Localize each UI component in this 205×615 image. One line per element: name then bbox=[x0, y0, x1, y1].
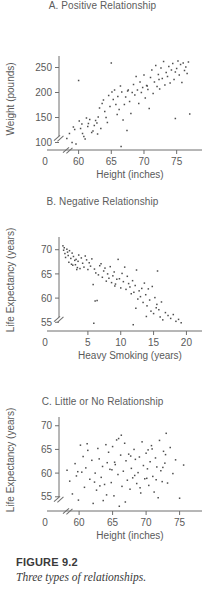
data-point bbox=[84, 487, 86, 489]
data-point bbox=[175, 321, 177, 323]
data-point bbox=[115, 283, 117, 285]
data-point bbox=[130, 113, 132, 115]
data-point bbox=[128, 283, 130, 285]
data-point bbox=[145, 97, 147, 99]
data-point bbox=[146, 85, 148, 87]
data-point bbox=[126, 130, 128, 132]
data-point bbox=[165, 312, 167, 314]
data-point bbox=[124, 104, 126, 106]
data-point bbox=[71, 252, 73, 254]
data-point bbox=[99, 265, 101, 267]
data-point bbox=[142, 87, 144, 89]
data-point bbox=[120, 287, 122, 289]
data-point bbox=[94, 125, 96, 127]
data-point bbox=[160, 67, 162, 69]
data-point bbox=[159, 316, 161, 318]
data-point bbox=[125, 96, 127, 98]
data-point bbox=[165, 433, 167, 435]
data-point bbox=[176, 68, 178, 70]
data-point bbox=[117, 96, 119, 98]
data-point bbox=[114, 285, 116, 287]
data-point bbox=[129, 101, 131, 103]
data-point bbox=[74, 463, 76, 465]
data-point bbox=[120, 146, 122, 148]
data-point bbox=[118, 109, 120, 111]
data-point bbox=[186, 73, 188, 75]
data-point bbox=[142, 302, 144, 304]
data-point bbox=[78, 254, 80, 256]
data-point bbox=[82, 263, 84, 265]
break-slash-2 bbox=[57, 316, 63, 323]
data-point bbox=[175, 118, 177, 120]
data-point bbox=[109, 469, 111, 471]
data-point bbox=[140, 296, 142, 298]
data-point bbox=[95, 120, 97, 122]
data-point bbox=[167, 76, 169, 78]
data-point bbox=[160, 470, 162, 472]
data-point bbox=[82, 133, 84, 135]
x-tick-label-65: 65 bbox=[107, 517, 119, 528]
data-point bbox=[64, 253, 66, 255]
data-point bbox=[153, 313, 155, 315]
y-tick-label-150: 150 bbox=[35, 112, 52, 123]
data-point bbox=[173, 79, 175, 81]
data-point bbox=[121, 273, 123, 275]
data-point bbox=[115, 104, 117, 106]
data-point bbox=[86, 443, 88, 445]
data-point bbox=[161, 481, 163, 483]
data-point bbox=[81, 123, 83, 125]
data-point bbox=[154, 297, 156, 299]
data-point bbox=[116, 278, 118, 280]
data-point bbox=[155, 65, 157, 67]
data-point bbox=[179, 497, 181, 499]
data-point bbox=[102, 500, 104, 502]
data-point bbox=[136, 483, 138, 485]
data-point bbox=[147, 89, 149, 91]
data-point bbox=[137, 89, 139, 91]
data-point bbox=[127, 479, 129, 481]
data-point bbox=[129, 286, 131, 288]
data-point bbox=[181, 82, 183, 84]
data-point bbox=[170, 318, 172, 320]
data-point bbox=[77, 267, 79, 269]
data-point bbox=[115, 464, 117, 466]
data-point bbox=[117, 259, 119, 261]
data-point bbox=[165, 454, 167, 456]
data-point bbox=[127, 90, 129, 92]
data-point bbox=[69, 133, 71, 135]
data-point bbox=[147, 468, 149, 470]
data-point bbox=[125, 289, 127, 291]
scatter-plot-c: 55606570606570750Height (inches)Life Exp… bbox=[0, 396, 205, 546]
data-point bbox=[158, 309, 160, 311]
data-point bbox=[83, 266, 85, 268]
data-point bbox=[144, 478, 146, 480]
data-point bbox=[64, 247, 66, 249]
data-point bbox=[66, 248, 68, 250]
data-point bbox=[101, 103, 103, 105]
data-point bbox=[69, 480, 71, 482]
data-point bbox=[175, 459, 177, 461]
data-point bbox=[131, 468, 133, 470]
data-point bbox=[74, 129, 76, 131]
data-point bbox=[125, 501, 127, 503]
data-point bbox=[136, 269, 138, 271]
data-point bbox=[143, 465, 145, 467]
data-point bbox=[68, 262, 70, 264]
y-tick-label-55: 55 bbox=[41, 317, 53, 328]
data-point bbox=[109, 106, 111, 108]
data-point bbox=[83, 136, 85, 138]
data-point bbox=[132, 477, 134, 479]
data-point bbox=[120, 454, 122, 456]
data-point bbox=[114, 461, 116, 463]
data-point bbox=[92, 503, 94, 505]
data-point bbox=[73, 256, 75, 258]
data-point bbox=[67, 251, 69, 253]
data-point bbox=[145, 452, 147, 454]
data-point bbox=[152, 286, 154, 288]
y-tick-label-200: 200 bbox=[35, 87, 52, 98]
data-point bbox=[113, 495, 115, 497]
data-point bbox=[113, 271, 115, 273]
data-point bbox=[111, 62, 113, 64]
data-point bbox=[123, 470, 125, 472]
data-point bbox=[79, 120, 81, 122]
